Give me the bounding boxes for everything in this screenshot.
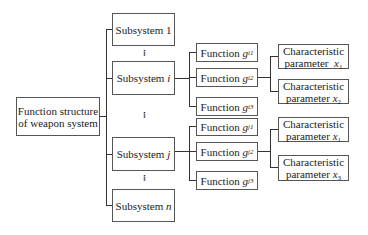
function-gj2-node: Function gj2 — [196, 142, 258, 161]
connector-functions-j-trunk — [189, 126, 190, 181]
param-i-x2-line2: parameter — [286, 92, 330, 104]
param-j-x1-sub: 1 — [338, 136, 342, 144]
subsystem-n-index: n — [166, 200, 172, 212]
function-gi2-node: Function gi2 — [196, 68, 258, 87]
subsystem-1-node: Subsystem 1 — [112, 13, 175, 46]
function-gj3-node: Function gj3 — [196, 171, 258, 190]
function-gj2-sub: j2 — [248, 148, 253, 156]
param-i-x2-sub: 2 — [338, 98, 342, 106]
subsystem-n-prefix: Subsystem — [116, 200, 164, 212]
param-i-x2-line1: Characteristic — [283, 80, 344, 92]
function-gj3-sub: j3 — [248, 177, 253, 185]
connector-params-i-trunk — [270, 56, 271, 92]
function-gi2-sub: i2 — [248, 74, 253, 82]
connector-gj3 — [189, 180, 196, 181]
subsystem-n-node: Subsystem n — [112, 189, 175, 222]
connector-gi3 — [189, 106, 196, 107]
subsystem-j-node: Subsystem j — [112, 137, 175, 171]
function-gi1-sub: i1 — [248, 49, 253, 57]
function-gj1-node: Function gj1 — [196, 118, 258, 136]
connector-gi2 — [189, 77, 196, 78]
function-gj1-sub: j1 — [248, 123, 253, 131]
ellipsis-2: ⁝ — [140, 111, 148, 120]
connector-subi-functions — [175, 78, 190, 79]
subsystem-i-index: i — [167, 72, 170, 84]
param-i-x1-line2: parameter — [285, 57, 329, 69]
function-gi1-node: Function gi1 — [196, 43, 258, 62]
connector-param-j1 — [270, 129, 278, 130]
connector-gj1 — [189, 126, 196, 127]
connector-param-i1 — [270, 56, 278, 57]
subsystem-1-prefix: Subsystem — [116, 24, 164, 36]
subsystem-j-prefix: Subsystem — [117, 148, 165, 160]
subsystem-i-prefix: Subsystem — [117, 72, 165, 84]
param-j-x1-line1: Characteristic — [283, 118, 344, 130]
function-gi3-node: Function gi3 — [196, 97, 258, 116]
root-label-line2: of weapon system — [18, 117, 97, 129]
param-j-x3-line2: parameter — [286, 168, 330, 180]
param-j-x1-node: Characteristic parameter x1 — [278, 117, 349, 142]
param-j-x3-node: Characteristic parameter x3 — [278, 155, 349, 181]
function-gi3-sub: i3 — [248, 103, 253, 111]
function-gj2-prefix: Function — [201, 146, 240, 158]
subsystem-1-index: 1 — [166, 24, 172, 36]
connector-param-i2 — [270, 91, 278, 92]
subsystem-j-index: j — [167, 148, 170, 160]
ellipsis-3: ⁝ — [140, 174, 148, 183]
connector-subj-functions — [175, 151, 190, 152]
ellipsis-1: ⁝ — [140, 49, 148, 58]
connector-trunk — [106, 29, 107, 206]
param-i-x1-sub: 1 — [339, 63, 343, 71]
function-gi3-prefix: Function — [201, 101, 240, 113]
param-j-x3-line1: Characteristic — [283, 156, 344, 168]
connector-functions-i-trunk — [189, 52, 190, 107]
subsystem-i-node: Subsystem i — [112, 61, 175, 95]
connector-param-j3 — [270, 167, 278, 168]
function-gi2-prefix: Function — [201, 72, 240, 84]
param-i-x2-node: Characteristic parameter x2 — [278, 79, 349, 104]
param-j-x3-sub: 3 — [338, 174, 342, 182]
connector-gi1 — [189, 52, 196, 53]
param-i-x1-line1: Characteristic — [283, 45, 344, 57]
connector-params-j-trunk — [270, 129, 271, 168]
function-gi1-prefix: Function — [201, 47, 240, 59]
param-j-x1-line2: parameter — [286, 130, 330, 142]
param-i-x1-node: Characteristic parameter x1 — [278, 44, 349, 69]
function-gj3-prefix: Function — [201, 175, 240, 187]
function-gj1-prefix: Function — [201, 121, 240, 133]
root-node-function-structure: Function structure of weapon system — [16, 97, 100, 136]
connector-gj2 — [189, 151, 196, 152]
root-label-line1: Function structure — [18, 105, 98, 117]
